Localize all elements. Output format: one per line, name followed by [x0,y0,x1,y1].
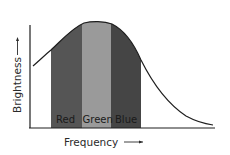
green-band [82,15,111,128]
y-axis-label: Brightness [11,57,23,113]
red-label: Red [56,114,75,125]
color-bands [51,15,141,128]
blue-band [111,15,141,128]
y-arrowhead-icon [16,37,19,41]
green-label: Green [83,114,113,125]
x-arrowhead-icon [139,141,143,144]
blue-label: Blue [115,114,137,125]
brightness-frequency-diagram: Red Green Blue Frequency Brightness [0,0,230,155]
x-axis-label: Frequency [64,136,118,148]
red-band [51,15,82,128]
